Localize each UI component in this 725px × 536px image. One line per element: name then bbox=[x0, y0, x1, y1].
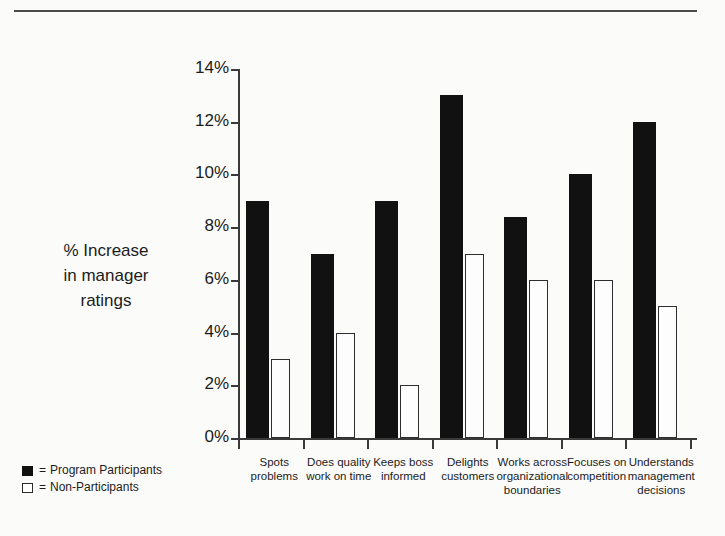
y-tick-mark bbox=[231, 69, 240, 71]
legend-label: Non-Participants bbox=[50, 479, 139, 496]
x-tick-mark bbox=[690, 440, 692, 449]
y-tick-mark bbox=[231, 227, 240, 229]
bar-program-participants bbox=[246, 201, 269, 438]
legend-swatch-non-participants bbox=[22, 483, 33, 493]
y-tick-mark bbox=[231, 280, 240, 282]
y-tick-label: 6% bbox=[204, 269, 229, 289]
x-tick-mark bbox=[432, 440, 434, 449]
y-tick-label: 14% bbox=[195, 58, 229, 78]
bar-program-participants bbox=[311, 254, 334, 439]
bar-program-participants bbox=[375, 201, 398, 438]
top-divider-rule bbox=[14, 10, 697, 12]
x-tick-mark bbox=[238, 440, 240, 449]
bar-non-participants bbox=[594, 280, 613, 438]
chart-figure: % Increase in manager ratings 0%2%4%6%8%… bbox=[0, 0, 725, 536]
y-tick-mark bbox=[231, 385, 240, 387]
x-tick-mark bbox=[496, 440, 498, 449]
bar-non-participants bbox=[271, 359, 290, 438]
legend-label: Program Participants bbox=[50, 462, 162, 479]
bar-non-participants bbox=[336, 333, 355, 438]
legend-item: =Program Participants bbox=[22, 462, 162, 479]
bar-non-participants bbox=[529, 280, 548, 438]
y-tick-mark bbox=[231, 122, 240, 124]
chart-legend: =Program Participants=Non-Participants bbox=[22, 462, 162, 496]
y-tick-label: 2% bbox=[204, 374, 229, 394]
x-tick-mark bbox=[303, 440, 305, 449]
category-label-line: management bbox=[623, 469, 700, 483]
y-axis-title-line-1: % Increase bbox=[18, 238, 194, 263]
x-axis-line bbox=[238, 438, 697, 440]
category-label: Understandsmanagementdecisions bbox=[623, 455, 700, 497]
bar-program-participants bbox=[633, 122, 656, 438]
x-tick-mark bbox=[367, 440, 369, 449]
legend-equals-sign: = bbox=[39, 462, 46, 479]
bar-program-participants bbox=[440, 95, 463, 438]
x-tick-mark bbox=[625, 440, 627, 449]
bar-program-participants bbox=[504, 217, 527, 438]
y-tick-label: 8% bbox=[204, 216, 229, 236]
category-label-line: boundaries bbox=[494, 483, 571, 497]
y-tick-label: 12% bbox=[195, 111, 229, 131]
category-label-line: Understands bbox=[623, 455, 700, 469]
y-tick-label: 4% bbox=[204, 322, 229, 342]
y-axis-title-line-2: in manager bbox=[18, 263, 194, 288]
legend-item: =Non-Participants bbox=[22, 479, 162, 496]
bar-non-participants bbox=[400, 385, 419, 438]
y-axis-title: % Increase in manager ratings bbox=[18, 238, 194, 313]
legend-swatch-program-participants bbox=[22, 466, 33, 476]
bar-program-participants bbox=[569, 174, 592, 438]
bar-non-participants bbox=[465, 254, 484, 439]
legend-equals-sign: = bbox=[39, 479, 46, 496]
bar-non-participants bbox=[658, 306, 677, 438]
x-tick-mark bbox=[561, 440, 563, 449]
y-tick-mark bbox=[231, 333, 240, 335]
y-tick-mark bbox=[231, 174, 240, 176]
y-tick-label: 10% bbox=[195, 163, 229, 183]
category-label-line: decisions bbox=[623, 483, 700, 497]
y-tick-label: 0% bbox=[204, 427, 229, 447]
plot-area: 0%2%4%6%8%10%12%14% SpotsproblemsDoes qu… bbox=[238, 69, 697, 440]
y-axis-title-line-3: ratings bbox=[18, 288, 194, 313]
